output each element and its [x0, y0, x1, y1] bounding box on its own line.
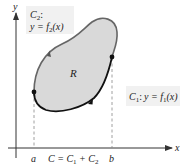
x-axis-label: x	[174, 142, 180, 153]
label-c-sum: C = C1 + C2	[48, 153, 99, 166]
y-axis-label: y	[12, 1, 18, 12]
label-b: b	[109, 153, 114, 164]
region-label: R	[69, 67, 77, 79]
label-a: a	[31, 153, 36, 164]
point-a	[32, 90, 37, 95]
green-theorem-diagram: y x R C2: y = f2(x) C1:y = f1(x) a b C =…	[0, 0, 182, 167]
point-b	[110, 55, 115, 60]
